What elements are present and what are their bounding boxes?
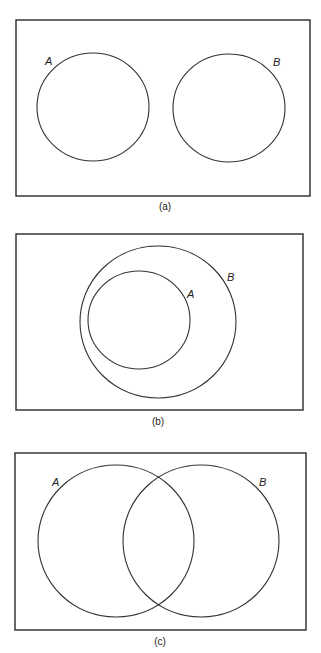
panel-caption: (a) — [159, 201, 171, 212]
set-a-circle — [38, 465, 194, 617]
panel-c: A B (c) — [15, 453, 306, 647]
universe-rectangle — [16, 234, 303, 410]
venn-figure: A B (a) A B (b) A B (c) — [0, 0, 321, 653]
set-b-circle — [173, 54, 285, 162]
panel-caption: (c) — [154, 636, 166, 647]
set-b-circle — [80, 246, 236, 398]
set-b-label: B — [273, 56, 280, 68]
set-a-circle — [88, 271, 190, 369]
panel-a: A B (a) — [16, 20, 310, 212]
set-b-circle — [123, 465, 279, 617]
panel-caption: (b) — [152, 416, 164, 427]
set-a-label: A — [186, 288, 194, 300]
set-a-label: A — [51, 476, 59, 488]
universe-rectangle — [16, 20, 310, 196]
set-a-circle — [37, 53, 149, 161]
set-b-label: B — [259, 476, 266, 488]
set-a-label: A — [44, 55, 52, 67]
panel-b: A B (b) — [16, 234, 303, 427]
set-b-label: B — [227, 271, 234, 283]
